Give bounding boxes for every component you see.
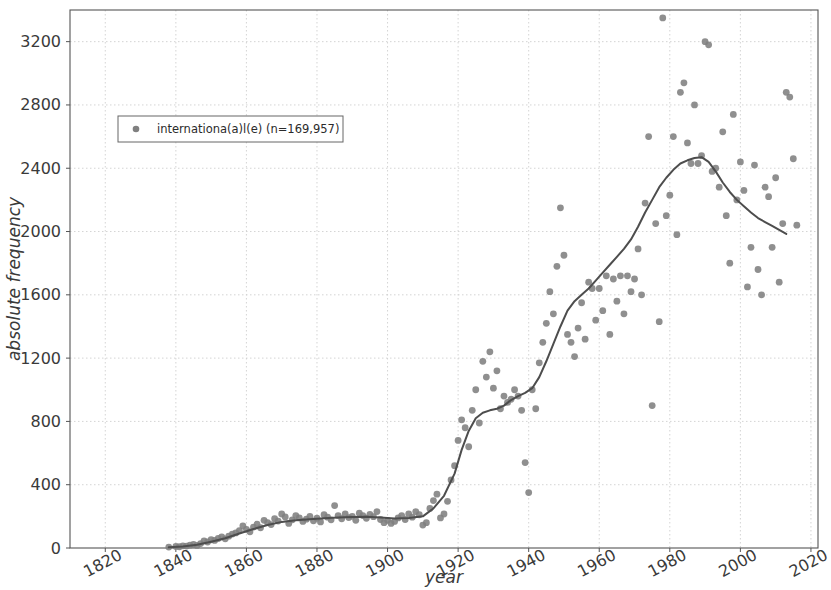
data-point (434, 491, 441, 498)
data-point (642, 200, 649, 207)
data-point (501, 393, 508, 400)
data-point (758, 291, 765, 298)
data-point (730, 111, 737, 118)
data-point (649, 402, 656, 409)
data-point (624, 272, 631, 279)
data-point (532, 405, 539, 412)
data-point (726, 260, 733, 267)
data-point (483, 374, 490, 381)
legend: internationa(a)l(e) (n=169,957) (118, 116, 343, 142)
data-point (472, 386, 479, 393)
data-point (469, 407, 476, 414)
data-point (691, 102, 698, 109)
data-point (716, 184, 723, 191)
data-point (751, 162, 758, 169)
data-point (695, 160, 702, 167)
data-point (575, 325, 582, 332)
data-point (282, 514, 289, 521)
tick-label-y: 0 (51, 539, 61, 558)
data-point (613, 298, 620, 305)
data-point (610, 276, 617, 283)
data-point (705, 41, 712, 48)
data-point (458, 416, 465, 423)
data-point (652, 220, 659, 227)
data-point (525, 489, 532, 496)
data-point (511, 386, 518, 393)
data-point (578, 299, 585, 306)
data-point (772, 174, 779, 181)
data-point (550, 310, 557, 317)
data-point (684, 140, 691, 147)
data-point (769, 244, 776, 251)
data-point (688, 160, 695, 167)
data-point (331, 502, 338, 509)
data-point (748, 244, 755, 251)
data-point (518, 407, 525, 414)
data-point (755, 266, 762, 273)
data-point (673, 231, 680, 238)
data-point (779, 220, 786, 227)
tick-label-y: 800 (30, 412, 61, 431)
data-point (490, 385, 497, 392)
data-point (681, 79, 688, 86)
data-point (568, 339, 575, 346)
data-point (663, 212, 670, 219)
data-point (762, 184, 769, 191)
data-point (723, 212, 730, 219)
scatter-plot: 0400800120016002000240028003200 18201840… (0, 0, 831, 590)
data-point (374, 508, 381, 515)
data-point (617, 272, 624, 279)
data-point (571, 353, 578, 360)
data-point (790, 155, 797, 162)
data-point (645, 133, 652, 140)
data-point (455, 437, 462, 444)
data-point (659, 15, 666, 22)
data-point (793, 222, 800, 229)
data-point (462, 424, 469, 431)
data-point (543, 320, 550, 327)
data-point (494, 367, 501, 374)
legend-entry-label: internationa(a)l(e) (n=169,957) (157, 122, 339, 136)
data-point (656, 318, 663, 325)
tick-label-y: 1600 (20, 285, 61, 304)
data-point (430, 497, 437, 504)
data-point (582, 336, 589, 343)
tick-label-y: 2800 (20, 95, 61, 114)
data-point (719, 128, 726, 135)
tick-label-y: 1200 (20, 349, 61, 368)
data-point (621, 310, 628, 317)
data-point (741, 187, 748, 194)
data-point (476, 420, 483, 427)
data-point (441, 511, 448, 518)
chart-figure: 0400800120016002000240028003200 18201840… (0, 0, 831, 590)
legend-marker-icon (133, 126, 140, 133)
data-point (599, 307, 606, 314)
data-point (554, 263, 561, 270)
data-point (539, 339, 546, 346)
data-point (744, 284, 751, 291)
y-axis-label: absolute frequency (4, 196, 24, 361)
data-point (631, 276, 638, 283)
data-point (557, 204, 564, 211)
data-point (564, 331, 571, 338)
data-point (423, 519, 430, 526)
data-point (776, 279, 783, 286)
data-point (465, 443, 472, 450)
data-point (536, 359, 543, 366)
data-point (522, 459, 529, 466)
data-point (638, 291, 645, 298)
data-point (765, 193, 772, 200)
tick-label-y: 3200 (20, 32, 61, 51)
data-point (737, 159, 744, 166)
tick-label-y: 2000 (20, 222, 61, 241)
data-point (677, 89, 684, 96)
data-point (479, 358, 486, 365)
tick-label-y: 400 (30, 475, 61, 494)
data-point (603, 272, 610, 279)
data-point (561, 252, 568, 259)
data-point (606, 331, 613, 338)
data-point (635, 246, 642, 253)
data-point (666, 192, 673, 199)
data-point (592, 317, 599, 324)
data-point (670, 133, 677, 140)
